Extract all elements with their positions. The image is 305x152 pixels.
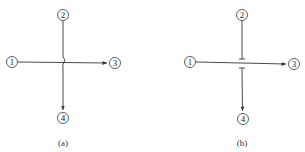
edge-2-to-4-lower <box>242 68 243 111</box>
caption-b: (b) <box>237 138 248 148</box>
svg-text:3: 3 <box>292 59 297 69</box>
svg-text:4: 4 <box>241 114 246 124</box>
svg-text:1: 1 <box>188 57 193 67</box>
node-1: 1 <box>185 57 196 68</box>
svg-text:3: 3 <box>113 58 118 68</box>
node-3: 3 <box>289 59 300 70</box>
caption-a: (a) <box>58 138 68 148</box>
node-2: 2 <box>237 10 248 21</box>
edge-1-to-3 <box>196 62 286 64</box>
svg-text:2: 2 <box>61 10 66 20</box>
diagram-a: 2 1 3 4 (a) <box>7 10 121 149</box>
node-3: 3 <box>110 58 121 69</box>
edge-1-to-3 <box>18 62 107 63</box>
diagram-b: 2 1 3 4 (b) <box>185 10 300 149</box>
svg-text:1: 1 <box>10 57 15 67</box>
node-2: 2 <box>58 10 69 21</box>
svg-text:2: 2 <box>240 10 245 20</box>
node-1: 1 <box>7 57 18 68</box>
node-4: 4 <box>58 113 69 124</box>
svg-text:4: 4 <box>61 113 66 123</box>
edge-2-to-4-jump <box>63 21 65 110</box>
node-4: 4 <box>238 114 249 125</box>
crossing-diagrams: 2 1 3 4 (a) 2 1 3 4 (b) <box>0 0 305 152</box>
